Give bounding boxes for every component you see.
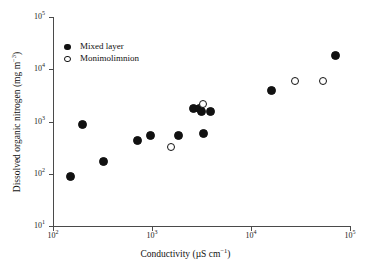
- figure: 101102103104105 102103104105 Mixed layer…: [0, 0, 371, 272]
- legend-item-label: Mixed layer: [80, 40, 124, 52]
- data-point-mixed-layer: [267, 86, 276, 95]
- data-point-monimolimnion: [199, 100, 207, 108]
- data-point-monimolimnion: [319, 77, 327, 85]
- x-tick-label: 102: [40, 231, 66, 240]
- data-point-mixed-layer: [66, 172, 75, 181]
- data-point-mixed-layer: [146, 131, 155, 140]
- x-tick-label: 104: [238, 231, 264, 240]
- open-circle-icon: [64, 56, 71, 63]
- data-point-mixed-layer: [206, 107, 215, 116]
- y-tick-label: 104: [23, 64, 45, 73]
- data-point-mixed-layer: [197, 107, 206, 116]
- data-point-mixed-layer: [78, 120, 87, 129]
- x-tick-label: 105: [337, 231, 363, 240]
- legend-item-label: Monimolimnion: [80, 52, 139, 64]
- data-point-mixed-layer: [99, 157, 108, 166]
- data-point-monimolimnion: [167, 143, 175, 151]
- y-tick-label: 101: [23, 221, 45, 230]
- y-tick-label: 102: [23, 169, 45, 178]
- data-point-mixed-layer: [133, 136, 142, 145]
- data-point-mixed-layer: [199, 129, 208, 138]
- data-point-monimolimnion: [291, 77, 299, 85]
- x-axis-title: Conductivity (µS cm−1): [0, 249, 371, 259]
- y-tick-label: 105: [23, 12, 45, 21]
- x-axis-line: [53, 226, 351, 227]
- x-tick-label: 103: [139, 231, 165, 240]
- y-tick-label: 103: [23, 117, 45, 126]
- y-axis-title: Dissolved organic nitrogen (mg m−3): [12, 17, 22, 227]
- filled-circle-icon: [64, 44, 71, 51]
- data-point-mixed-layer: [174, 131, 183, 140]
- data-point-mixed-layer: [331, 51, 340, 60]
